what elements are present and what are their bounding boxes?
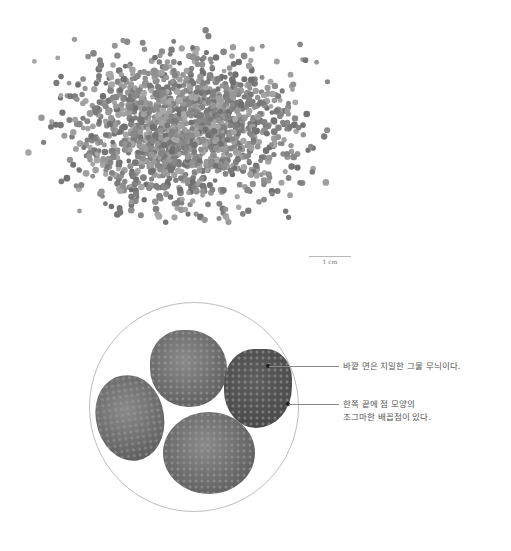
callout-line-surface xyxy=(269,366,339,367)
callout-surface-text: 바깥 면은 치밀한 그물 무늬이다. xyxy=(343,360,461,373)
seed-scatter-photo xyxy=(0,0,511,260)
seed-top xyxy=(150,330,227,407)
scale-bar-label: 1 cm xyxy=(309,258,351,265)
callout-hilum-text-line2: 조그마한 배꼽점이 있다. xyxy=(343,411,431,424)
callout-line-hilum xyxy=(289,404,339,405)
callout-hilum-text-line1: 한쪽 끝에 점 모양의 xyxy=(343,398,415,411)
seed-bottom xyxy=(163,412,255,494)
scale-bar xyxy=(309,256,351,257)
